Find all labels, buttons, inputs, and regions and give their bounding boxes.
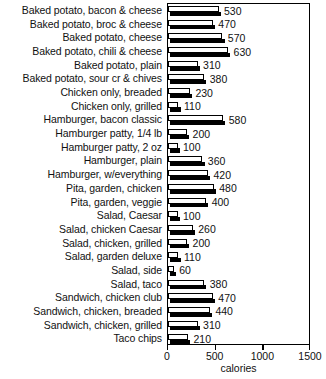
bar-row: 310 [168, 59, 309, 73]
bar-row: 380 [168, 72, 309, 86]
bar-row: 60 [168, 264, 309, 278]
bar-value-label: 110 [184, 250, 201, 264]
bar-value-label: 420 [214, 168, 232, 182]
bar-shadow [170, 107, 180, 111]
bar-value-label: 530 [224, 4, 242, 18]
bar-shadow [170, 299, 215, 303]
plot-area: 5304705706303103802301105802001003604204… [167, 3, 310, 345]
bar-row: 470 [168, 18, 309, 32]
bar-value-label: 210 [194, 332, 212, 346]
category-label: Baked potato, chili & cheese [32, 44, 162, 58]
category-axis-labels: Baked potato, bacon & cheeseBaked potato… [0, 3, 165, 345]
category-label: Salad, garden deluxe [65, 249, 162, 263]
bar-shadow [170, 244, 189, 248]
bar-value-label: 110 [184, 99, 201, 113]
bar-value-label: 470 [218, 291, 236, 305]
bar-shadow [170, 12, 221, 16]
bar-shadow [170, 135, 189, 139]
bar-shadow [170, 66, 200, 70]
bar-shadow [170, 94, 192, 98]
bar-value-label: 440 [215, 304, 233, 318]
bar-row: 480 [168, 182, 309, 196]
bar-row: 200 [168, 127, 309, 141]
bar-row: 200 [168, 237, 309, 251]
category-label: Baked potato, cheese [62, 30, 162, 44]
bar-value-label: 380 [210, 277, 228, 291]
bar-row: 100 [168, 141, 309, 155]
category-label: Sandwich, chicken, grilled [44, 318, 162, 332]
bar-row: 630 [168, 45, 309, 59]
bar-value-label: 470 [218, 17, 236, 31]
bar-value-label: 570 [228, 31, 246, 45]
bar-row: 570 [168, 31, 309, 45]
bar-row: 260 [168, 223, 309, 237]
category-label: Hamburger, bacon classic [44, 112, 162, 126]
bar-row: 440 [168, 305, 309, 319]
category-label: Baked potato, plain [74, 58, 162, 72]
category-label: Sandwich, chicken, breaded [33, 304, 162, 318]
category-label: Pita, garden, chicken [66, 181, 162, 195]
bar-row: 420 [168, 168, 309, 182]
bar-shadow [170, 80, 206, 84]
bar-row: 310 [168, 319, 309, 333]
bar-shadow [170, 121, 225, 125]
bar-row: 470 [168, 291, 309, 305]
category-label: Salad, chicken Caesar [59, 222, 162, 236]
category-label: Baked potato, broc & cheese [30, 17, 162, 31]
bar-value-label: 310 [203, 318, 221, 332]
bar-row: 380 [168, 278, 309, 292]
bar-value-label: 360 [208, 154, 226, 168]
category-label: Pita, garden, veggie [71, 195, 162, 209]
category-label: Hamburger, w/everything [48, 167, 162, 181]
bar-value-label: 230 [195, 86, 213, 100]
bar-value-label: 480 [219, 181, 237, 195]
bar-row: 110 [168, 100, 309, 114]
category-label: Hamburger patty, 2 oz [61, 140, 162, 154]
bar-shadow [170, 340, 190, 344]
bar-shadow [170, 25, 215, 29]
category-label: Hamburger, plain [84, 153, 162, 167]
bar-shadow [170, 53, 230, 57]
category-label: Sandwich, chicken club [55, 290, 162, 304]
category-label: Salad, side [111, 263, 162, 277]
category-label: Salad, Caesar [97, 208, 162, 222]
category-label: Chicken only, breaded [60, 85, 162, 99]
bar-value-label: 260 [198, 222, 216, 236]
bar-shadow [170, 162, 204, 166]
bar-row: 400 [168, 196, 309, 210]
category-label: Hamburger patty, 1/4 lb [55, 126, 162, 140]
bar-shadow [170, 258, 180, 262]
bar-shadow [170, 189, 216, 193]
bar-row: 110 [168, 250, 309, 264]
bar-chart-figure: Baked potato, bacon & cheeseBaked potato… [0, 0, 326, 379]
bar-value-label: 100 [183, 209, 201, 223]
bar-row: 230 [168, 86, 309, 100]
bar-value-label: 100 [183, 140, 201, 154]
bar-value-label: 200 [193, 127, 211, 141]
bar-row: 530 [168, 4, 309, 18]
bar-value-label: 310 [203, 58, 221, 72]
category-label: Salad, taco [111, 277, 162, 291]
bar-value-label: 580 [229, 113, 247, 127]
bar-value-label: 630 [234, 45, 252, 59]
bar-shadow [170, 326, 200, 330]
category-label: Salad, chicken, grilled [62, 236, 162, 250]
category-label: Baked potato, bacon & cheese [22, 3, 162, 17]
bar-shadow [170, 176, 210, 180]
bar-shadow [170, 39, 224, 43]
bar-shadow [170, 313, 212, 317]
bar-value-label: 400 [212, 195, 230, 209]
bar-value-label: 380 [210, 72, 228, 86]
bar-value-label: 200 [193, 236, 211, 250]
bar-row: 360 [168, 154, 309, 168]
category-label: Taco chips [113, 331, 162, 345]
bar-shadow [170, 217, 180, 221]
category-label: Baked potato, sour cr & chives [23, 71, 162, 85]
bar-value-label: 60 [179, 263, 191, 277]
bar-shadow [170, 148, 180, 152]
bar-row: 580 [168, 113, 309, 127]
bar-shadow [170, 230, 195, 234]
x-axis-title: calories [167, 362, 310, 374]
bar-row: 100 [168, 209, 309, 223]
bar-shadow [170, 272, 176, 276]
